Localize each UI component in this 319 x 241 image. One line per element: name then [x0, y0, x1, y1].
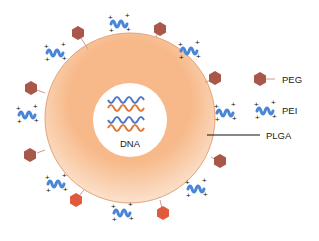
legend-item-peg: PEG	[254, 72, 302, 86]
legend-label-pei: PEI	[282, 105, 297, 116]
legend: PEG PEI PLGA	[207, 72, 302, 141]
plga-label: PLGA	[266, 130, 292, 141]
dna-label: DNA	[120, 138, 141, 149]
dna-core: DNA	[93, 83, 167, 157]
legend-label-peg: PEG	[282, 74, 302, 85]
nanoparticle-diagram: + + + + DNA	[0, 0, 319, 241]
legend-item-pei: PEI	[254, 98, 297, 122]
legend-item-plga: PLGA	[207, 130, 292, 141]
